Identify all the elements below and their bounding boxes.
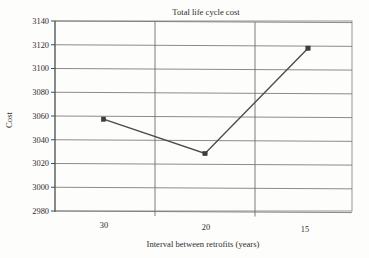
- y-axis-ticks: [51, 21, 55, 211]
- y-tick-label-3080: 3080: [32, 88, 49, 97]
- y-tick-label-3040: 3040: [32, 136, 49, 145]
- x-tick-label-15: 15: [301, 225, 309, 234]
- y-axis-tick-labels: 3140 3120 3100 3080 3060 3040 3020 3000 …: [32, 17, 49, 216]
- y-tick-label-3020: 3020: [32, 159, 49, 168]
- line-chart: 3140 3120 3100 3080 3060 3040 3020 3000 …: [0, 0, 369, 258]
- chart-figure: 3140 3120 3100 3080 3060 3040 3020 3000 …: [0, 0, 369, 258]
- data-point-30: [101, 117, 105, 121]
- y-tick-label-3100: 3100: [32, 64, 49, 73]
- y-tick-label-3000: 3000: [32, 183, 49, 192]
- data-point-20: [203, 151, 207, 155]
- data-point-markers: [101, 46, 310, 156]
- x-axis-title: Interval between retrofits (years): [147, 239, 260, 249]
- y-tick-label-3140: 3140: [32, 17, 49, 26]
- data-point-15: [306, 46, 310, 50]
- y-tick-label-3120: 3120: [32, 41, 49, 50]
- y-axis-title: Cost: [4, 112, 14, 128]
- y-tick-label-3060: 3060: [32, 112, 49, 121]
- x-tick-label-20: 20: [202, 223, 210, 232]
- x-tick-label-30: 30: [100, 221, 108, 230]
- chart-title: Total life cycle cost: [172, 7, 240, 17]
- data-series-total-life-cycle-cost: [104, 48, 309, 153]
- x-axis-tick-labels: 30 20 15: [100, 221, 309, 234]
- vertical-gridlines: [155, 22, 255, 217]
- y-tick-label-2980: 2980: [32, 207, 49, 216]
